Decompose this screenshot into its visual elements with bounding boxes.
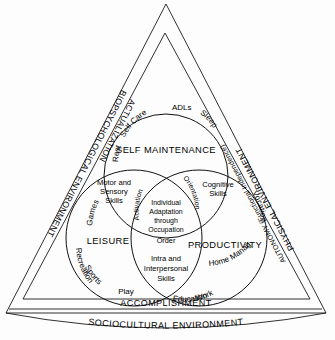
label-motor-sensory-line3: Skills — [105, 196, 123, 205]
center-line-4: Occupation — [148, 226, 184, 234]
occupational-performance-diagram: BIOPSYCHOLOGICAL ENVIRONMENT PHYSICAL EN… — [0, 0, 335, 340]
label-play: Play — [118, 287, 134, 296]
label-order: Order — [157, 236, 176, 245]
intersection-intra-interpersonal: Intra and Interpersonal Skills — [144, 254, 189, 283]
center-core-label: Individual Adaptation through Occupation — [148, 199, 184, 234]
label-cognitive-line1: Cognitive — [202, 180, 234, 189]
label-cognitive-line2: Skills — [209, 189, 227, 198]
label-intra-line2: Interpersonal — [144, 264, 189, 273]
label-motor-sensory-line1: Motor and — [97, 178, 131, 187]
inner-triangle-left-edge — [23, 33, 165, 299]
label-motor-sensory-line2: Sensory — [100, 187, 128, 196]
label-physical-environment: PHYSICAL ENVIRONMENT — [233, 146, 296, 253]
center-line-1: Individual — [151, 199, 181, 206]
label-self-maintenance: SELF MAINTENANCE — [116, 145, 216, 155]
diagram-canvas: BIOPSYCHOLOGICAL ENVIRONMENT PHYSICAL EN… — [0, 0, 335, 340]
label-leisure: LEISURE — [87, 236, 130, 246]
center-line-3: through — [154, 217, 178, 225]
label-adls: ADLs — [172, 103, 192, 112]
intersection-motor-sensory: Motor and Sensory Skills — [97, 178, 131, 205]
label-intra-line3: Skills — [157, 274, 175, 283]
intersection-cognitive-skills: Cognitive Skills — [202, 180, 234, 198]
center-line-2: Adaptation — [149, 208, 183, 216]
label-sociocultural-environment: SOCIOCULTURAL ENVIRONMENT — [88, 317, 244, 331]
label-orientation: Orientation — [182, 174, 201, 209]
label-games: Games — [85, 198, 101, 226]
label-intra-line1: Intra and — [151, 254, 181, 263]
